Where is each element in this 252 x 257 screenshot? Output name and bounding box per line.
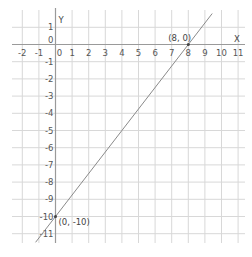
point-label-a: (8, 0) [168,33,191,43]
y-axis-label: Y [58,15,65,25]
y-tick-label: 0 [48,35,53,45]
x-tick-label: 2 [86,48,91,58]
y-tick-label: -3 [45,91,53,101]
y-tick-label: -2 [45,74,53,84]
x-tick-label: 8 [186,48,191,58]
y-tick-label: -1 [45,57,53,67]
x-axis-label: X [234,34,240,44]
x-tick-label: -1 [35,48,43,58]
x-tick-label: 11 [233,48,244,58]
point-marker-b [54,215,57,218]
y-tick-label: -5 [45,126,53,136]
x-tick-label: 1 [69,48,74,58]
point-marker-a [187,43,190,46]
y-tick-label: -10 [40,212,54,222]
y-tick-label: -7 [45,160,53,170]
x-tick-label: 0 [57,48,62,58]
x-tick-label: 6 [152,48,157,58]
x-tick-label: 5 [136,48,141,58]
point-label-b: (0, -10) [59,217,90,227]
x-tick-label: 3 [103,48,108,58]
x-tick-label: 10 [216,48,227,58]
y-tick-label: 1 [48,22,53,32]
x-tick-label: 4 [119,48,124,58]
y-tick-label: -4 [45,108,53,118]
y-tick-label: -8 [45,177,53,187]
x-tick-label: 7 [169,48,174,58]
x-tick-label: 9 [202,48,207,58]
y-tick-label: -6 [45,143,53,153]
x-tick-label: -2 [18,48,26,58]
y-tick-label: -9 [45,194,53,204]
coordinate-plane: -2-101234567891011 10-1-2-3-4-5-6-7-8-9-… [0,0,252,257]
